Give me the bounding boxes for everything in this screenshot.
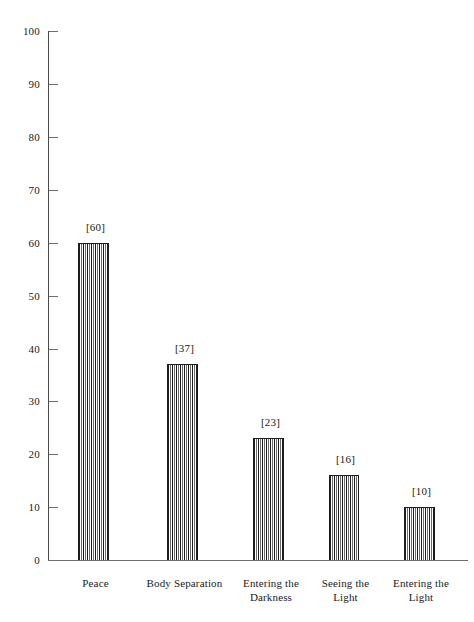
x-axis-category-label-entering-the-light: Entering the Light: [374, 576, 468, 604]
y-axis-tick-label: 0: [12, 555, 40, 566]
y-axis-tick-label: 90: [12, 79, 40, 90]
y-axis-tick-label: 80: [12, 132, 40, 143]
y-axis-tick: [49, 560, 58, 561]
bar-body-separation: [167, 364, 198, 560]
bar-value-label: [10]: [389, 486, 454, 497]
bar-chart: 100 90 80 70 60 50 40 30 20 10 0 Percent…: [0, 0, 474, 622]
bar-entering-the-light: [404, 507, 435, 560]
bar-seeing-the-light: [329, 475, 359, 560]
plot-area: [48, 31, 468, 560]
y-axis-tick-label: 70: [12, 185, 40, 196]
bar-value-label: [37]: [152, 343, 217, 354]
bar-value-label: [16]: [313, 454, 378, 465]
y-axis-tick-label: 30: [12, 396, 40, 407]
x-axis-category-label-body-separation: Body Separation: [136, 576, 233, 590]
y-axis-tick-label: 10: [12, 502, 40, 513]
y-axis-tick-label: 20: [12, 449, 40, 460]
bar-value-label: [23]: [238, 417, 303, 428]
y-axis-tick-label: 60: [12, 238, 40, 249]
y-axis-tick-label: 40: [12, 344, 40, 355]
bar-entering-the-darkness: [253, 438, 284, 560]
y-axis-tick-label: 50: [12, 291, 40, 302]
x-axis-line: [48, 560, 468, 561]
y-axis-tick-label: 100: [12, 26, 40, 37]
bar-peace: [78, 243, 109, 560]
x-axis-category-label-peace: Peace: [49, 576, 142, 590]
bar-value-label: [60]: [63, 222, 128, 233]
